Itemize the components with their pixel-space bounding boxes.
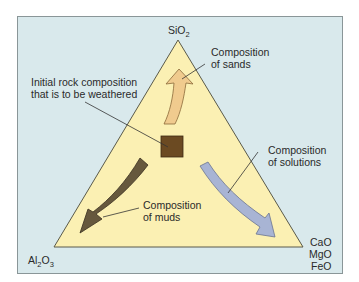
label-initial-rock: Initial rock composition that is to be w… bbox=[31, 76, 140, 100]
vertex-label-cao-mgo-feo: CaO MgO FeO bbox=[309, 236, 335, 272]
label-composition-of-solutions: Composition of solutions bbox=[268, 144, 329, 168]
weathering-ternary-diagram: SiO2 Al2O3 CaO MgO FeO Initial rock comp… bbox=[0, 0, 359, 282]
initial-rock-square-icon bbox=[161, 136, 183, 157]
